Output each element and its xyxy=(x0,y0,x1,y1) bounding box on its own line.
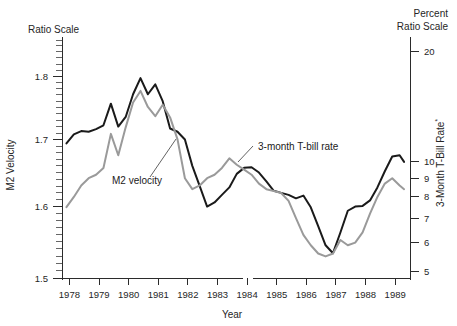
x-tick-label: 1988 xyxy=(355,289,376,300)
x-tick-label: 1979 xyxy=(88,289,109,300)
x-tick-label: 1986 xyxy=(296,289,317,300)
x-tick-label: 1980 xyxy=(118,289,139,300)
right-tick-label: 7 xyxy=(424,213,429,224)
right-tick-label: 8 xyxy=(424,191,429,202)
x-tick-label: 1984 xyxy=(237,289,258,300)
ratio-scale-label-left: Ratio Scale xyxy=(28,24,80,35)
annotation-label-m2-velocity: M2 velocity xyxy=(112,175,162,186)
annotation-label-3-month-t-bill-rate: 3-month T-bill rate xyxy=(258,141,339,152)
x-tick-label: 1981 xyxy=(148,289,169,300)
right-tick-label: 10 xyxy=(424,156,435,167)
y-axis-title-left: M2 Velocity xyxy=(5,139,16,190)
chart-figure: Ratio Scale Percent Ratio Scale M2 Veloc… xyxy=(0,0,457,326)
x-tick-label: 1983 xyxy=(207,289,228,300)
right-tick-label: 9 xyxy=(424,173,429,184)
y-axis-title-right: 3-Month T-Bill Rate* xyxy=(434,119,446,207)
x-tick-label: 1978 xyxy=(59,289,80,300)
y-axis-title-right-text: 3-Month T-Bill Rate xyxy=(435,121,446,207)
right-tick-label: 20 xyxy=(424,46,435,57)
x-tick-label: 1987 xyxy=(325,289,346,300)
left-tick-label: 1.7 xyxy=(35,134,48,145)
ratio-scale-label-right: Ratio Scale xyxy=(397,21,449,32)
line-chart-svg: Ratio Scale Percent Ratio Scale M2 Veloc… xyxy=(0,0,457,326)
left-tick-label: 1.6 xyxy=(35,201,48,212)
x-tick-label: 1989 xyxy=(385,289,406,300)
left-tick-label: 1.5 xyxy=(35,273,48,284)
percent-label-right: Percent xyxy=(414,8,449,19)
right-tick-label: 5 xyxy=(424,266,429,277)
x-tick-label: 1982 xyxy=(177,289,198,300)
right-tick-label: 6 xyxy=(424,237,429,248)
x-tick-label: 1985 xyxy=(266,289,287,300)
x-axis-title: Year xyxy=(222,309,243,320)
left-tick-label: 1.8 xyxy=(35,71,48,82)
